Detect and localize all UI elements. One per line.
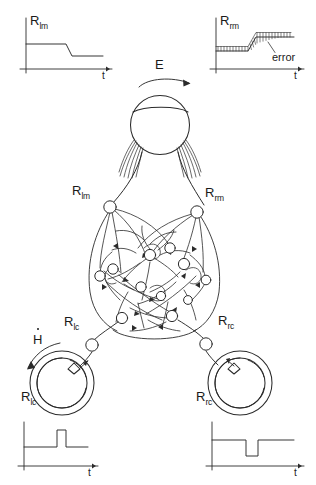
chart-bottom-right-x-axis-label: t [294, 468, 297, 478]
chart-bottom-left-x-axis-label: t [88, 468, 91, 478]
network-nodes [95, 201, 211, 324]
error-annotation-label: error [272, 52, 295, 63]
chart-bottom-left-trace [24, 430, 88, 447]
chart-bottom-left-axes [18, 422, 98, 470]
r-lm-node-label: Rlm [72, 184, 90, 200]
output-arms [80, 320, 218, 366]
e-rotation-arrow [139, 79, 191, 87]
chart-bottom-right-axes [206, 422, 304, 470]
chart-top-right-trace [216, 37, 294, 51]
left-wheel [30, 351, 94, 415]
chart-top-left-trace [26, 44, 103, 56]
e-rotation-label: E [155, 58, 164, 71]
chart-bottom-right-label: Rrc [196, 390, 212, 406]
chart-top-right-x-axis-label: t [294, 71, 297, 81]
node-r-rc [200, 338, 212, 350]
node-r-lm [104, 201, 116, 213]
node-r-lc [86, 339, 98, 351]
r-rc-node-label: Rrc [218, 314, 234, 330]
r-lc-node-label: Rlc [64, 315, 79, 331]
diagram-svg [0, 0, 316, 485]
chart-bottom-left-label: Rlc [21, 390, 36, 406]
head-outline [131, 96, 190, 155]
chart-top-left-label: Rlm [30, 14, 48, 30]
chart-top-right-label: Rrm [220, 14, 239, 30]
right-wheel [208, 351, 272, 415]
h-dot-label: H [33, 333, 42, 346]
chart-top-left-x-axis-label: t [102, 71, 105, 81]
chart-bottom-right-trace [212, 440, 294, 456]
torso-outline [113, 152, 204, 205]
figure-canvas: Rlm t Rrm error t Rlc t Rrc t E Rlm Rrm … [0, 0, 316, 485]
r-rm-node-label: Rrm [205, 186, 224, 202]
node-r-rm [191, 206, 203, 218]
